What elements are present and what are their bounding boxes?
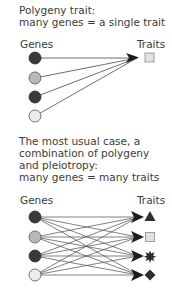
combination-diagram — [29, 211, 156, 281]
trait-diamond-icon — [145, 270, 156, 281]
trait-square-icon — [145, 53, 154, 62]
gene-4-icon — [29, 269, 41, 281]
gene-2-icon — [29, 72, 41, 84]
polygeny-diagram — [29, 52, 154, 122]
gene-1-icon — [29, 52, 41, 64]
gene-3-icon — [29, 91, 41, 103]
gene-1-icon — [29, 211, 41, 223]
trait-triangle-icon — [145, 211, 156, 221]
gene-3-icon — [29, 250, 41, 262]
trait-star-icon — [144, 251, 156, 264]
gene-2-icon — [29, 231, 41, 243]
combination-arrows — [35, 217, 138, 275]
diagram-canvas — [0, 0, 172, 292]
gene-4-icon — [29, 110, 41, 122]
polygeny-arrows — [35, 58, 137, 116]
trait-square-icon — [146, 233, 155, 242]
